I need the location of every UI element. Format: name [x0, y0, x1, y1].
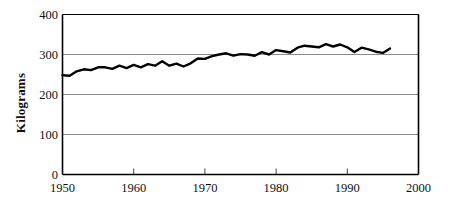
data-line-series-0 [63, 44, 391, 76]
chart-screenshot: Kilograms 0100200300400 1950196019701980… [0, 0, 458, 206]
plot-area [0, 0, 458, 206]
x-axis-tick-marks [134, 169, 348, 175]
gridlines [63, 15, 419, 135]
